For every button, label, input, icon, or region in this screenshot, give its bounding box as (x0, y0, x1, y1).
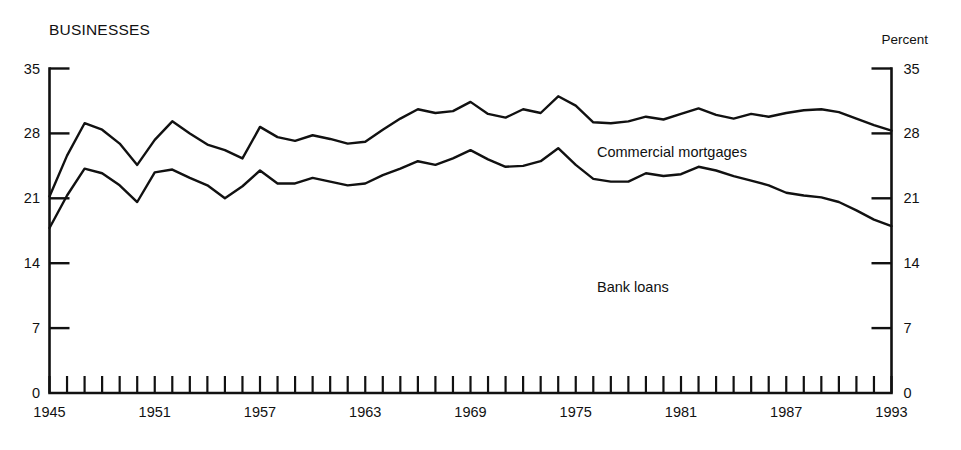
y-axis-left-tick-label: 7 (10, 321, 40, 336)
y-axis-left-tick-label: 35 (10, 62, 40, 77)
x-axis-tick-label: 1969 (454, 405, 486, 420)
series-line-bank-loans (50, 148, 892, 228)
series-label-commercial-mortgages: Commercial mortgages (597, 144, 747, 160)
chart-plot-area (0, 0, 961, 450)
panel-title: BUSINESSES (49, 21, 150, 39)
y-axis-left-tick-label: 14 (10, 256, 40, 271)
y-axis-unit-label: Percent (881, 32, 928, 47)
series-line-commercial-mortgages (50, 96, 892, 196)
x-axis-tick-label: 1951 (139, 405, 171, 420)
series-label-bank-loans: Bank loans (597, 279, 669, 295)
y-axis-left-tick-label: 0 (10, 386, 40, 401)
y-axis-left-tick-label: 21 (10, 191, 40, 206)
y-axis-right-tick-label: 14 (904, 256, 920, 271)
y-axis-right-tick-label: 35 (904, 62, 920, 77)
x-axis-tick-label: 1981 (665, 405, 697, 420)
x-axis-tick-label: 1957 (244, 405, 276, 420)
y-axis-right-tick-label: 21 (904, 191, 920, 206)
y-axis-right-tick-label: 0 (904, 386, 912, 401)
x-axis-tick-label: 1987 (770, 405, 802, 420)
y-axis-left-tick-label: 28 (10, 126, 40, 141)
x-axis-tick-label: 1963 (349, 405, 381, 420)
y-axis-right-tick-label: 7 (904, 321, 912, 336)
chart-container: BUSINESSES Percent 0714212835 0714212835… (0, 0, 961, 450)
x-axis-tick-label: 1993 (875, 405, 907, 420)
y-axis-right-tick-label: 28 (904, 126, 920, 141)
x-axis-tick-label: 1975 (560, 405, 592, 420)
x-axis-tick-label: 1945 (33, 405, 65, 420)
